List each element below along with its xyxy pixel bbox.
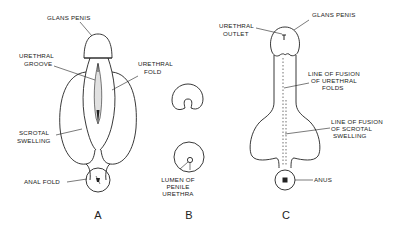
label-fusion-urethral-line1: LINE OF FUSION bbox=[308, 70, 360, 77]
label-fusion-scrotal-line2: OF SCROTAL bbox=[331, 125, 372, 132]
genital-development-diagram: GLANS PENIS URETHRAL GROOVE URETHRAL FOL… bbox=[0, 0, 403, 233]
label-lumen-line3: URETHRA bbox=[162, 190, 194, 197]
label-lumen-line1: LUMEN OF bbox=[161, 176, 195, 183]
label-fusion-scrotal-line1: LINE OF FUSION bbox=[331, 118, 383, 125]
panel-label-a: A bbox=[94, 209, 102, 221]
scrotal-swelling-right-shape bbox=[101, 72, 136, 164]
glans-penis-a-shape bbox=[84, 34, 112, 58]
scrotal-swelling-left-shape bbox=[60, 72, 95, 164]
label-anus: ANUS bbox=[314, 176, 332, 183]
label-fusion-urethral-line3: FOLDS bbox=[322, 84, 344, 91]
lumen-penile-urethra-shape bbox=[187, 157, 192, 162]
label-anal-fold: ANAL FOLD bbox=[24, 178, 60, 185]
label-urethral-fold-line1: URETHRAL bbox=[138, 60, 173, 67]
label-urethral-groove-line1: URETHRAL bbox=[19, 52, 54, 59]
label-lumen-line2: PENILE bbox=[166, 183, 189, 190]
label-scrotal-swelling-line2: SWELLING bbox=[17, 137, 51, 144]
label-urethral-outlet-line1: URETHRAL bbox=[219, 22, 254, 29]
label-glans-penis-c: GLANS PENIS bbox=[312, 11, 355, 18]
panel-a: GLANS PENIS URETHRAL GROOVE URETHRAL FOL… bbox=[17, 14, 173, 221]
label-glans-penis-a: GLANS PENIS bbox=[47, 14, 90, 21]
panel-c: GLANS PENIS URETHRAL OUTLET LINE OF FUSI… bbox=[219, 11, 383, 221]
penile-urethra-cross-section bbox=[174, 142, 204, 172]
label-urethral-fold-line2: FOLD bbox=[144, 68, 162, 75]
urethral-fold-cross-section bbox=[172, 84, 203, 110]
glans-penis-c-shape bbox=[271, 27, 300, 56]
label-fusion-urethral-line2: OF URETHRAL bbox=[311, 77, 357, 84]
panel-label-b: B bbox=[185, 209, 192, 221]
label-urethral-outlet-line2: OUTLET bbox=[223, 30, 249, 37]
panel-label-c: C bbox=[282, 209, 290, 221]
label-scrotal-swelling-line1: SCROTAL bbox=[19, 129, 50, 136]
urethral-outlet-mark bbox=[282, 35, 286, 40]
label-fusion-scrotal-line3: SWELLING bbox=[333, 132, 367, 139]
panel-b: LUMEN OF PENILE URETHRA B bbox=[161, 84, 204, 221]
label-urethral-groove-line2: GROOVE bbox=[24, 60, 52, 67]
